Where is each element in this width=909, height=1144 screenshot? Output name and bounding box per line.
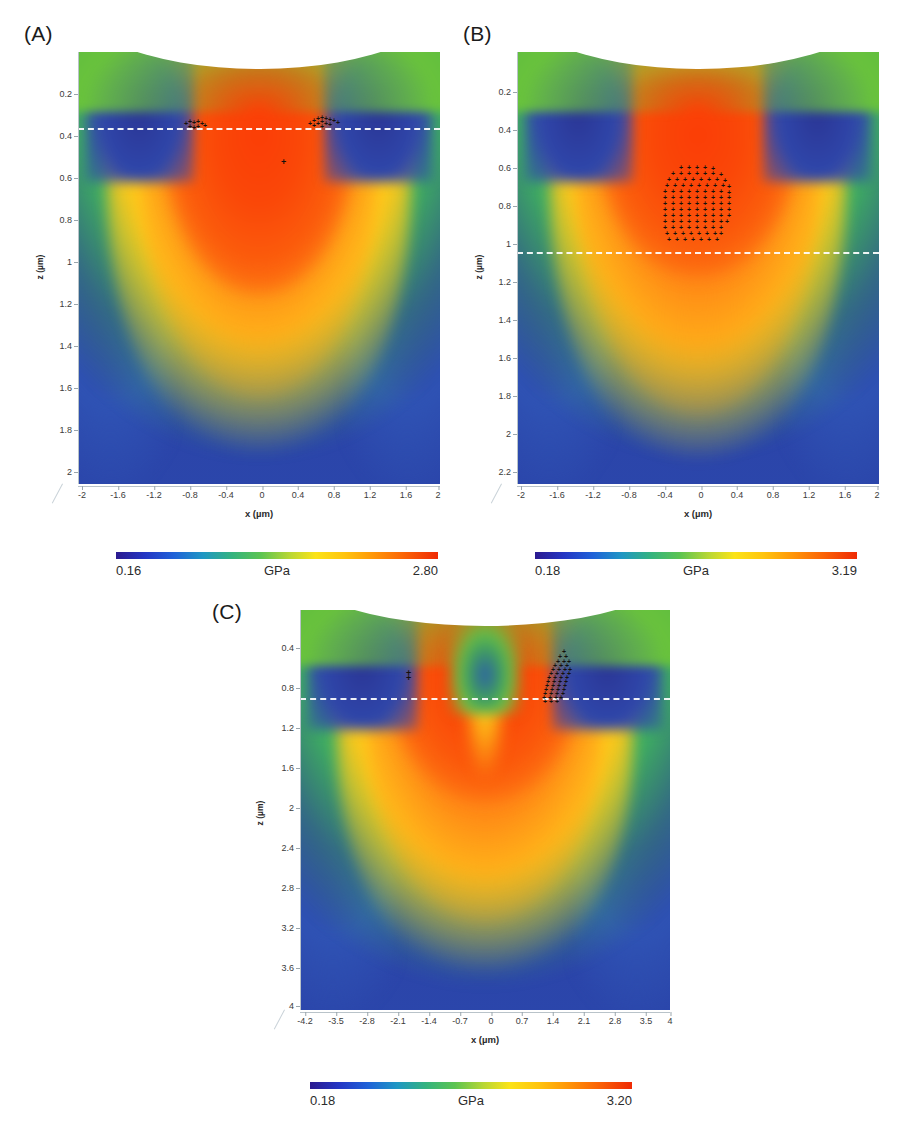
panel-c-y-tick: 1.2 xyxy=(281,723,300,733)
panel-b-field-canvas: +++++ +++++++ ++++++++ +++++++++ +++++++… xyxy=(517,52,879,484)
panel-c-y-tick: 2.4 xyxy=(281,843,300,853)
panel-c: (C) xyxy=(190,592,720,1144)
panel-a-y-tick: 0.8 xyxy=(59,215,78,225)
panel-c-label: (C) xyxy=(212,600,242,624)
panel-b-y-tick: 1.6 xyxy=(498,353,517,363)
panel-a-colorbar-max: 2.80 xyxy=(413,563,438,578)
panel-a-perspective-edge xyxy=(52,484,63,504)
panel-a-x-tick: -0.8 xyxy=(182,490,198,500)
panel-b-x-tick: 2 xyxy=(874,490,879,500)
panel-a-y-tick: 1.4 xyxy=(59,341,78,351)
panel-b-y-tick: 2.2 xyxy=(498,467,517,477)
panel-a-x-axis-title: x (µm) xyxy=(78,508,440,519)
panel-b-x-tick: -1.6 xyxy=(549,490,565,500)
panel-c-x-tick: -1.4 xyxy=(421,1016,437,1026)
panel-a-x-tick: 1.6 xyxy=(400,490,413,500)
panel-a-y-tick: 1 xyxy=(67,257,78,267)
panel-c-x-tick: -2.1 xyxy=(390,1016,406,1026)
panel-c-x-tick: -3.5 xyxy=(328,1016,344,1026)
panel-b-label: (B) xyxy=(463,22,492,46)
panel-c-x-tick: -0.7 xyxy=(452,1016,468,1026)
panel-c-y-axis: 0.4 0.8 1.2 1.6 2 2.4 2.8 3.2 3.6 4 xyxy=(300,610,301,1010)
panel-b-y-tick: 2 xyxy=(506,429,517,439)
panel-a-marker-single: + xyxy=(281,159,289,167)
panel-a-y-axis: 0.2 0.4 0.6 0.8 1 1.2 1.4 1.6 1.8 2 xyxy=(78,52,79,484)
panel-c-y-tick: 3.2 xyxy=(281,923,300,933)
panel-b-perspective-edge xyxy=(491,484,502,504)
panel-c-x-axis: -4.2 -3.5 -2.8 -2.1 -1.4 -0.7 0 0.7 1.4 … xyxy=(300,1012,670,1013)
panel-c-x-tick: 0 xyxy=(488,1016,493,1026)
panel-b-y-axis-title: z (µm) xyxy=(474,247,484,287)
panel-b-x-tick: 0 xyxy=(698,490,703,500)
panel-a-y-tick: 0.4 xyxy=(59,131,78,141)
panel-a-x-tick: 2 xyxy=(435,490,440,500)
panel-b-y-tick: 1.2 xyxy=(498,277,517,287)
panel-b-y-axis: 0.2 0.4 0.6 0.8 1 1.2 1.4 1.6 1.8 2 2.2 xyxy=(517,52,518,484)
panel-b-x-axis: -2 -1.6 -1.2 -0.8 -0.4 0 0.4 0.8 1.2 1.6… xyxy=(517,486,879,487)
panel-c-marker-single-left: + + xyxy=(406,670,416,682)
panel-c-y-tick: 0.4 xyxy=(281,643,300,653)
panel-b-colorbar-max: 3.19 xyxy=(832,563,857,578)
panel-b-y-tick: 0.2 xyxy=(498,87,517,97)
panel-b-colorbar-unit: GPa xyxy=(683,563,709,578)
panel-c-x-tick: 3.5 xyxy=(640,1016,653,1026)
panel-c-x-tick: -4.2 xyxy=(297,1016,313,1026)
panel-a-y-axis-title: z (µm) xyxy=(35,247,45,287)
panel-a-field-canvas: + + + + + + + + + + + + + + + + xyxy=(78,52,440,484)
panel-b-colorbar-min: 0.18 xyxy=(535,563,560,578)
panel-a-x-tick: -1.6 xyxy=(110,490,126,500)
panel-a-y-tick: 0.6 xyxy=(59,173,78,183)
panel-b-y-tick: 0.4 xyxy=(498,125,517,135)
panel-b: (B) +++++ xyxy=(455,0,909,600)
stress-field-b xyxy=(517,52,879,484)
stress-field-a xyxy=(78,52,440,484)
panel-a-colorbar-gradient xyxy=(116,552,438,559)
panel-c-plot-area: + + + ++ +++ +++ ++++ ++++ ++++ ++++ +++… xyxy=(300,610,670,1010)
panel-c-x-tick: 4 xyxy=(667,1016,672,1026)
panel-c-x-tick: -2.8 xyxy=(359,1016,375,1026)
panel-a-marker-cluster-left: + + + + + + + + + xyxy=(184,118,208,130)
panel-c-y-tick: 2 xyxy=(289,803,300,813)
panel-b-marker-cluster-center: +++++ +++++++ ++++++++ +++++++++ +++++++… xyxy=(663,164,741,248)
panel-a-label: (A) xyxy=(24,22,53,46)
panel-a-x-tick: 0.4 xyxy=(292,490,305,500)
panel-b-x-tick: 1.2 xyxy=(803,490,816,500)
panel-c-perspective-edge xyxy=(274,1010,285,1030)
panel-c-y-axis-title: z (µm) xyxy=(255,793,265,833)
panel-c-x-tick: 1.4 xyxy=(547,1016,560,1026)
panel-c-field-canvas: + + + ++ +++ +++ ++++ ++++ ++++ ++++ +++… xyxy=(300,610,670,1010)
panel-a: (A) xyxy=(0,0,455,600)
panel-c-colorbar-unit: GPa xyxy=(458,1093,484,1108)
panel-c-reference-line xyxy=(300,698,670,700)
panel-a-y-tick: 1.6 xyxy=(59,383,78,393)
panel-a-colorbar-min: 0.16 xyxy=(116,563,141,578)
panel-a-plot-area: + + + + + + + + + + + + + + + + xyxy=(78,52,440,484)
panel-c-y-tick: 3.6 xyxy=(281,963,300,973)
panel-c-x-tick: 2.8 xyxy=(609,1016,622,1026)
panel-b-x-axis-title: x (µm) xyxy=(517,508,879,519)
panel-a-marker-cluster-right: + + + + + + + + + + + + + + xyxy=(308,114,342,130)
panel-a-x-tick: 0 xyxy=(259,490,264,500)
panel-a-colorbar-unit: GPa xyxy=(264,563,290,578)
stress-field-c xyxy=(300,610,670,1010)
panel-a-reference-line xyxy=(78,128,440,130)
panel-b-x-tick: 1.6 xyxy=(839,490,852,500)
panel-a-y-tick: 1.8 xyxy=(59,425,78,435)
figure-root: (A) xyxy=(0,0,909,1144)
panel-c-x-axis-title: x (µm) xyxy=(300,1034,670,1045)
panel-a-x-tick: -2 xyxy=(78,490,86,500)
panel-c-y-tick: 1.6 xyxy=(281,763,300,773)
panel-b-x-tick: 0.8 xyxy=(767,490,780,500)
panel-c-x-tick: 2.1 xyxy=(578,1016,591,1026)
panel-b-plot-area: +++++ +++++++ ++++++++ +++++++++ +++++++… xyxy=(517,52,879,484)
panel-c-y-tick: 0.8 xyxy=(281,683,300,693)
panel-c-y-tick: 2.8 xyxy=(281,883,300,893)
panel-b-colorbar-gradient xyxy=(535,552,857,559)
panel-c-colorbar-max: 3.20 xyxy=(607,1093,632,1108)
panel-a-y-tick: 0.2 xyxy=(59,89,78,99)
panel-b-x-tick: -0.8 xyxy=(621,490,637,500)
panel-a-x-axis: -2 -1.6 -1.2 -0.8 -0.4 0 0.4 0.8 1.2 1.6… xyxy=(78,486,440,487)
panel-c-marker-cluster-right: + ++ +++ +++ ++++ ++++ ++++ ++++ ++++ ++… xyxy=(540,648,574,706)
panel-a-x-tick: -0.4 xyxy=(218,490,234,500)
panel-c-colorbar-gradient xyxy=(310,1082,632,1089)
